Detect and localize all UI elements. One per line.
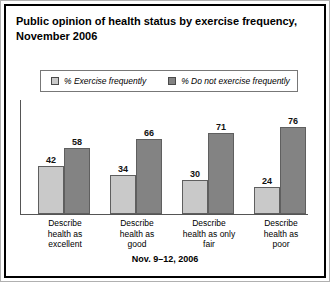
x-tick-label-good-line2: health as (99, 229, 175, 240)
bar-group-only-fair: 30 71 (182, 100, 236, 214)
x-tick-label-excellent-line3: excellent (27, 239, 103, 250)
x-tick-label-excellent-line1: Describe (27, 218, 103, 229)
chart-figure: Public opinion of health status by exerc… (0, 0, 330, 282)
bar-value-exercise-frequently-only-fair: 30 (190, 169, 200, 179)
bar-do-not-exercise-only-fair: 71 (208, 133, 234, 214)
bar-exercise-frequently-excellent: 42 (38, 166, 64, 214)
bar-exercise-frequently-only-fair: 30 (182, 180, 208, 214)
x-tick-label-only-fair-line1: Describe (171, 218, 247, 229)
bar-exercise-frequently-poor: 24 (254, 187, 280, 214)
x-tick-label-only-fair-line2: health as only (171, 229, 247, 240)
legend-label-exercise-frequently: % Exercise frequently (64, 76, 146, 86)
x-tick-label-excellent: Describe health as excellent (27, 218, 103, 250)
x-tick-label-poor-line1: Describe (243, 218, 319, 229)
bar-group-excellent: 42 58 (38, 100, 92, 214)
bar-value-do-not-exercise-good: 66 (144, 128, 154, 138)
bar-value-do-not-exercise-excellent: 58 (72, 137, 82, 147)
bar-value-exercise-frequently-poor: 24 (262, 176, 272, 186)
bar-do-not-exercise-poor: 76 (280, 127, 306, 214)
chart-legend: % Exercise frequently % Do not exercise … (40, 70, 298, 92)
x-tick-label-good: Describe health as good (99, 218, 175, 250)
x-tick-label-only-fair: Describe health as only fair (171, 218, 247, 250)
legend-label-do-not-exercise-frequently: % Do not exercise frequently (181, 76, 290, 86)
bar-value-do-not-exercise-only-fair: 71 (216, 122, 226, 132)
x-tick-label-excellent-line2: health as (27, 229, 103, 240)
legend-item-do-not-exercise-frequently: % Do not exercise frequently (168, 76, 290, 86)
bar-group-good: 34 66 (110, 100, 164, 214)
bar-do-not-exercise-good: 66 (136, 139, 162, 214)
bar-exercise-frequently-good: 34 (110, 175, 136, 214)
chart-footnote: Nov. 9–12, 2006 (0, 254, 330, 264)
legend-swatch-light-icon (51, 77, 59, 85)
bar-do-not-exercise-excellent: 58 (64, 148, 90, 214)
x-axis-line (20, 214, 308, 215)
x-tick-label-poor-line2: health as (243, 229, 319, 240)
bar-group-poor: 24 76 (254, 100, 308, 214)
plot-area: 42 58 34 66 30 71 24 (20, 100, 308, 215)
x-tick-label-poor: Describe health as poor (243, 218, 319, 250)
chart-title: Public opinion of health status by exerc… (16, 14, 306, 44)
y-axis-line (20, 100, 21, 215)
x-tick-label-poor-line3: poor (243, 239, 319, 250)
x-tick-label-good-line1: Describe (99, 218, 175, 229)
legend-swatch-dark-icon (168, 77, 176, 85)
bar-value-exercise-frequently-excellent: 42 (46, 155, 56, 165)
x-tick-label-only-fair-line3: fair (171, 239, 247, 250)
bar-value-exercise-frequently-good: 34 (118, 164, 128, 174)
legend-item-exercise-frequently: % Exercise frequently (51, 76, 146, 86)
x-axis-tick-labels: Describe health as excellent Describe he… (20, 218, 308, 252)
x-tick-label-good-line3: good (99, 239, 175, 250)
bar-value-do-not-exercise-poor: 76 (288, 116, 298, 126)
